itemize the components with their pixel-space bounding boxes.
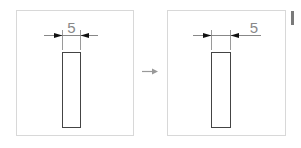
dimension-text: 5 <box>250 19 258 36</box>
panel-before: 5 <box>17 11 134 136</box>
transition-arrow-icon <box>142 69 158 75</box>
rectangle-shape <box>212 53 231 128</box>
rectangle-shape <box>63 53 81 128</box>
diagram-canvas: 5 5 <box>0 0 301 148</box>
edge-marker <box>291 11 294 25</box>
panel-after: 5 <box>168 11 286 136</box>
dimension-text: 5 <box>67 19 75 36</box>
